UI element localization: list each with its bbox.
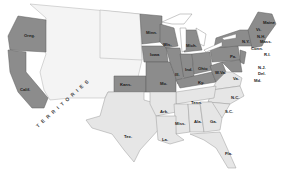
- label-south-carolina: S.C.: [225, 109, 233, 114]
- label-kansas: Kans.: [120, 82, 131, 87]
- label-minnesota: Minn.: [146, 30, 157, 35]
- label-alabama: Ala.: [194, 119, 202, 124]
- label-wisconsin: Wis.: [163, 42, 172, 47]
- state-new-jersey: [240, 50, 246, 64]
- label-texas: Tex.: [124, 134, 132, 139]
- label-rhode-island: R.I.: [264, 52, 271, 57]
- label-california: Calif.: [20, 87, 30, 92]
- label-maine: Maine: [263, 20, 276, 25]
- label-indiana: Ind.: [185, 67, 192, 72]
- state-minnesota: [140, 14, 162, 44]
- label-new-york: N.Y.: [242, 39, 250, 44]
- label-vermont: Vt.: [256, 27, 261, 32]
- territories-plains: [100, 10, 142, 60]
- us-civil-war-map: TERRITORIES Oreg. Calif. Kans. Minn. Wis…: [0, 0, 283, 178]
- label-west-virginia: W.Va.: [215, 70, 226, 75]
- label-mississippi: Miss.: [175, 121, 185, 126]
- label-louisiana: La.: [162, 137, 168, 142]
- label-iowa: Iowa: [150, 52, 160, 57]
- state-mississippi: [174, 104, 190, 134]
- label-georgia: Ga.: [210, 119, 217, 124]
- label-new-jersey: N.J.: [258, 65, 266, 70]
- label-illinois: Ill.: [175, 72, 180, 77]
- label-arkansas: Ark.: [160, 109, 168, 114]
- state-florida: [190, 132, 236, 168]
- label-north-carolina: N.C.: [231, 95, 239, 100]
- label-michigan: Mich.: [186, 43, 197, 48]
- label-pennsylvania: Pa.: [230, 54, 236, 59]
- lake-michigan: [180, 28, 186, 52]
- label-kentucky: Ky.: [198, 80, 204, 85]
- label-connecticut: Conn.: [251, 46, 263, 51]
- label-massachusetts: Mass.: [260, 39, 272, 44]
- state-texas: [86, 92, 160, 162]
- label-tennessee: Tenn.: [191, 100, 202, 105]
- label-maryland: Md.: [254, 78, 261, 83]
- label-florida: Fla.: [225, 151, 232, 156]
- label-delaware: Del.: [258, 71, 266, 76]
- label-oregon: Oreg.: [24, 33, 35, 38]
- label-missouri: Mo.: [160, 81, 167, 86]
- label-ohio: Ohio: [198, 66, 208, 71]
- label-virginia: Va.: [233, 76, 239, 81]
- lake-superior: [162, 14, 192, 24]
